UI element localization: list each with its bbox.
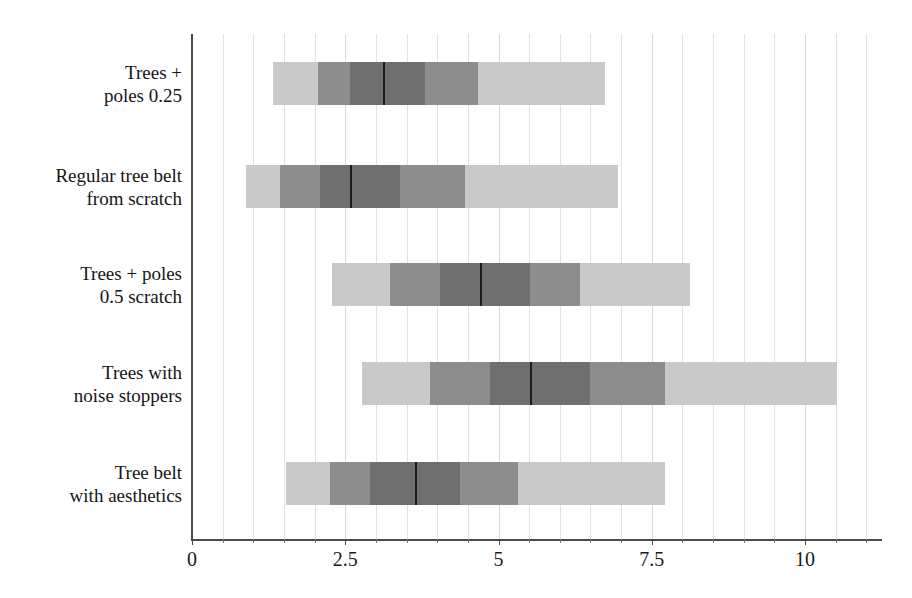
category-label: Tree beltwith aesthetics xyxy=(0,461,182,507)
x-axis-minor-tick xyxy=(437,539,438,543)
x-axis-minor-tick xyxy=(376,539,377,543)
category-label-line: Trees with xyxy=(0,361,182,384)
bar-segment-light xyxy=(362,362,430,405)
category-label-line: Tree belt xyxy=(0,461,182,484)
x-axis-tick-label: 5 xyxy=(494,548,504,571)
category-label: Trees + poles0.5 scratch xyxy=(0,262,182,308)
x-axis-major-tick xyxy=(805,539,806,545)
x-axis-minor-tick xyxy=(468,539,469,543)
category-label-line: Trees + poles xyxy=(0,262,182,285)
x-axis-minor-tick xyxy=(713,539,714,543)
x-axis-minor-tick xyxy=(253,539,254,543)
bar-segment-medium xyxy=(400,165,465,208)
bar-row xyxy=(192,62,882,105)
category-label-line: Regular tree belt xyxy=(0,164,182,187)
x-axis-major-tick xyxy=(499,539,500,545)
x-axis-tick-label: 0 xyxy=(187,548,197,571)
bar-segment-dark xyxy=(440,263,529,306)
bar-segment-light xyxy=(518,462,665,505)
bar-row xyxy=(192,263,882,306)
x-axis-line xyxy=(191,539,882,541)
category-label-line: noise stoppers xyxy=(0,384,182,407)
bar-segment-light xyxy=(246,165,280,208)
bar-segment-medium xyxy=(460,462,518,505)
bar-segment-medium xyxy=(590,362,665,405)
bar-row xyxy=(192,462,882,505)
bar-segment-light xyxy=(580,263,690,306)
category-label-line: poles 0.25 xyxy=(0,84,182,107)
x-axis-minor-tick xyxy=(284,539,285,543)
bar-segment-medium xyxy=(280,165,320,208)
x-axis-minor-tick xyxy=(560,539,561,543)
x-axis-minor-tick xyxy=(866,539,867,543)
bar-segment-dark xyxy=(320,165,400,208)
category-label-line: with aesthetics xyxy=(0,484,182,507)
x-axis-major-tick xyxy=(652,539,653,545)
bar-segment-dark xyxy=(350,62,425,105)
median-line xyxy=(415,462,417,505)
x-axis-minor-tick xyxy=(529,539,530,543)
median-line xyxy=(350,165,352,208)
bar-segment-light xyxy=(273,62,318,105)
bar-segment-light xyxy=(465,165,618,208)
bar-segment-dark xyxy=(490,362,590,405)
x-axis-tick-label: 10 xyxy=(795,548,815,571)
bar-segment-light xyxy=(286,462,330,505)
category-label: Regular tree beltfrom scratch xyxy=(0,164,182,210)
x-axis-tick-label: 7.5 xyxy=(639,548,664,571)
x-axis-major-tick xyxy=(192,539,193,545)
bar-segment-medium xyxy=(318,62,350,105)
x-axis-minor-tick xyxy=(315,539,316,543)
x-axis-minor-tick xyxy=(621,539,622,543)
bar-row xyxy=(192,165,882,208)
x-axis-minor-tick xyxy=(836,539,837,543)
bar-segment-light xyxy=(478,62,605,105)
bar-segment-medium xyxy=(425,62,478,105)
chart-container: 02.557.510 Trees +poles 0.25Regular tree… xyxy=(0,0,912,598)
category-label-line: 0.5 scratch xyxy=(0,285,182,308)
bar-segment-light xyxy=(332,263,390,306)
category-label: Trees +poles 0.25 xyxy=(0,61,182,107)
x-axis-minor-tick xyxy=(590,539,591,543)
bar-segment-medium xyxy=(430,362,490,405)
bar-row xyxy=(192,362,882,405)
category-label-line: Trees + xyxy=(0,61,182,84)
category-label-line: from scratch xyxy=(0,187,182,210)
median-line xyxy=(383,62,385,105)
x-axis-minor-tick xyxy=(744,539,745,543)
x-axis-minor-tick xyxy=(682,539,683,543)
bar-segment-medium xyxy=(330,462,370,505)
median-line xyxy=(530,362,532,405)
bar-segment-medium xyxy=(390,263,440,306)
x-axis-major-tick xyxy=(345,539,346,545)
x-axis-minor-tick xyxy=(407,539,408,543)
bar-segment-light xyxy=(665,362,837,405)
x-axis-minor-tick xyxy=(774,539,775,543)
x-axis-tick-label: 2.5 xyxy=(333,548,358,571)
bar-segment-medium xyxy=(530,263,580,306)
median-line xyxy=(480,263,482,306)
category-label: Trees withnoise stoppers xyxy=(0,361,182,407)
x-axis-minor-tick xyxy=(223,539,224,543)
